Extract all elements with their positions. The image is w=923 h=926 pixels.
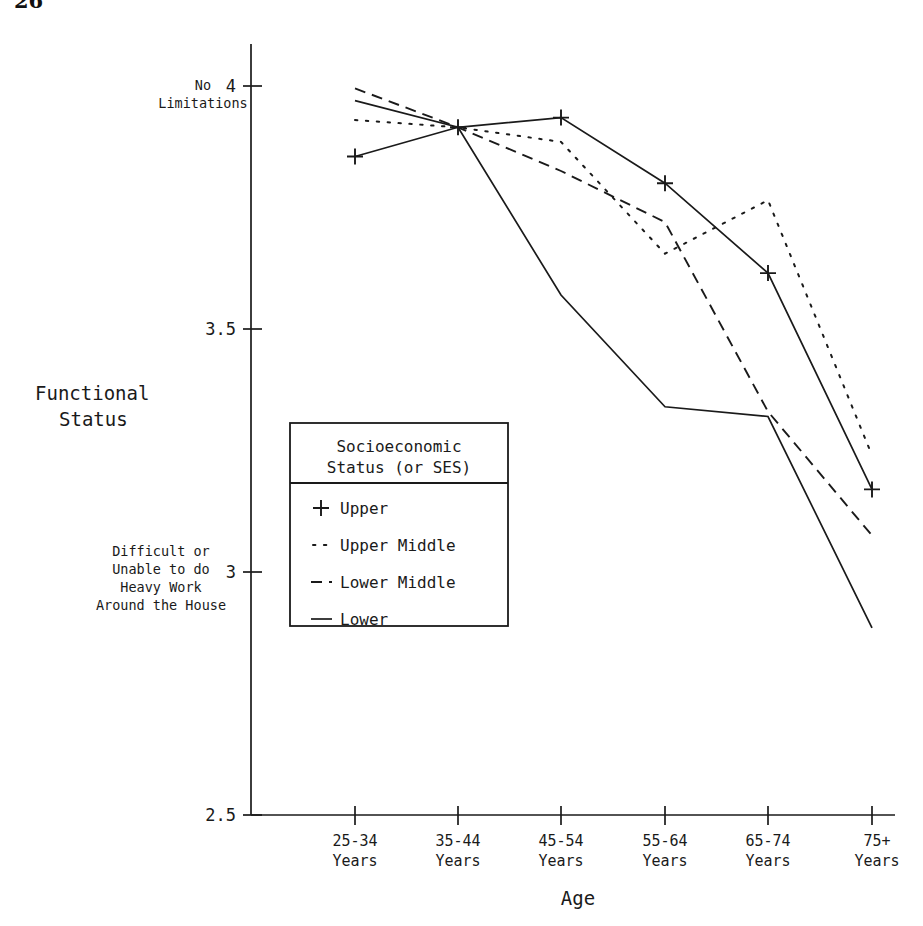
x-label-65-74-years: Years (745, 852, 790, 870)
x-axis-title: Age (561, 887, 595, 909)
y-tick-label-2-5: 2.5 (205, 805, 236, 825)
legend-title-line1: Socioeconomic (336, 437, 461, 456)
plus-marker-icon (347, 149, 363, 165)
x-label-45-54-range: 45-54 (538, 832, 583, 850)
legend: Socioeconomic Status (or SES) Upper Uppe… (290, 423, 508, 629)
annotation-difficult-line2: Unable to do (112, 561, 210, 577)
legend-label-lower: Lower (340, 610, 389, 629)
x-label-35-44-years: Years (435, 852, 480, 870)
x-label-55-64-range: 55-64 (642, 832, 687, 850)
functional-status-by-age-chart: 4 3.5 3 2.5 25-34 Years 35-44 Years 45-5… (0, 0, 923, 926)
legend-title-line2: Status (or SES) (327, 458, 472, 477)
figure-container: 26 4 3.5 3 2.5 25-34 Years 35-44 Years 4… (0, 0, 923, 926)
plus-marker-icon (450, 119, 466, 135)
x-label-25-34-years: Years (332, 852, 377, 870)
y-tick-label-3-5: 3.5 (205, 319, 236, 339)
y-axis-title-line2: Status (59, 408, 128, 430)
plus-marker-icon (864, 481, 880, 497)
annotation-difficult-line3: Heavy Work (120, 579, 201, 595)
y-tick-label-4: 4 (226, 76, 236, 96)
annotation-no-limitations-line1: No (195, 77, 211, 93)
x-label-65-74-range: 65-74 (745, 832, 790, 850)
x-label-75-plus-years: Years (854, 852, 899, 870)
y-tick-label-3: 3 (226, 562, 236, 582)
plus-marker-icon (553, 110, 569, 126)
legend-label-upper: Upper (340, 499, 389, 518)
annotation-difficult-line1: Difficult or (112, 543, 210, 559)
x-label-25-34-range: 25-34 (332, 832, 377, 850)
x-label-45-54-years: Years (538, 852, 583, 870)
legend-label-lower-middle: Lower Middle (340, 573, 456, 592)
series-upper-middle-line (355, 120, 872, 455)
annotation-difficult-line4: Around the House (96, 597, 226, 613)
y-axis-title-line1: Functional (35, 382, 149, 404)
legend-label-upper-middle: Upper Middle (340, 536, 456, 555)
x-label-55-64-years: Years (642, 852, 687, 870)
x-label-35-44-range: 35-44 (435, 832, 480, 850)
series-upper-middle (355, 120, 872, 455)
annotation-no-limitations-line2: Limitations (158, 95, 247, 111)
x-label-75-plus-range: 75+ (863, 832, 890, 850)
